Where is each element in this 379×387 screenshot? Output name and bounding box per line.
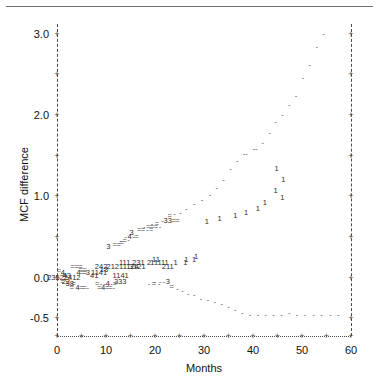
data-point: 1	[274, 165, 278, 173]
data-point: -	[236, 157, 239, 165]
data-point: 3121	[129, 263, 146, 271]
y-axis-title: MCF difference	[18, 147, 30, 222]
data-point: -	[296, 311, 299, 319]
x-tick: +	[226, 332, 231, 341]
data-point: 1141	[113, 272, 129, 280]
data-point: 1	[183, 260, 187, 268]
data-point: =	[169, 284, 173, 292]
data-point: -	[193, 201, 196, 209]
data-point: -	[322, 30, 325, 38]
data-point: -	[295, 92, 298, 100]
data-point: -	[281, 111, 284, 119]
data-point: -	[274, 118, 277, 126]
data-point: -	[179, 209, 182, 217]
y-tick: +	[54, 314, 59, 323]
data-point: -	[262, 139, 265, 147]
data-point: 1	[263, 199, 267, 207]
y-tick: +	[54, 111, 59, 120]
data-point: -	[87, 284, 90, 292]
data-point: -	[313, 311, 316, 319]
data-point: 3	[106, 243, 110, 251]
data-point: =	[69, 284, 73, 292]
data-point: -	[288, 310, 291, 318]
data-point: -	[320, 311, 323, 319]
data-point: -	[280, 311, 283, 319]
data-point: -	[173, 210, 176, 218]
x-tick-label: 30	[198, 344, 210, 356]
data-point: -	[158, 281, 161, 289]
x-tick: +	[201, 332, 206, 341]
y-tick: +	[348, 151, 353, 160]
data-point: -	[272, 311, 275, 319]
data-point: 1	[256, 206, 260, 214]
data-point: -	[193, 292, 196, 300]
data-point: 242	[95, 263, 108, 271]
data-point: =	[82, 266, 86, 274]
y-tick: +	[54, 192, 59, 201]
y-tick: +	[348, 70, 353, 79]
data-point: -	[176, 285, 179, 293]
y-tick-label: 3.0	[34, 28, 49, 40]
data-point: 1	[233, 212, 237, 220]
x-tick-label: 20	[149, 344, 161, 356]
y-tick: +	[54, 29, 59, 38]
data-point: -	[329, 311, 332, 319]
x-tick: +	[177, 332, 182, 341]
data-point: -	[337, 311, 340, 319]
data-point: -	[148, 281, 151, 289]
x-axis-title: Months	[186, 362, 222, 374]
x-tick-label: 10	[100, 344, 112, 356]
scatter-plot-area: ++-0.5++0.0++++1.0++++2.0++++3.0+0++10++…	[0, 0, 379, 387]
y-tick: +	[348, 232, 353, 241]
x-tick: +	[54, 332, 59, 341]
data-point: 1	[205, 219, 209, 227]
data-point: -	[249, 311, 252, 319]
data-point: 11	[152, 256, 160, 264]
y-tick: +	[54, 151, 59, 160]
x-tick-label: 50	[296, 344, 308, 356]
data-point: -	[229, 165, 232, 173]
data-point: -	[264, 311, 267, 319]
data-point: -	[215, 184, 218, 192]
y-tick-label: 2.0	[34, 109, 49, 121]
data-point: =	[155, 220, 159, 228]
data-point: --	[243, 150, 248, 158]
x-tick: +	[275, 332, 280, 341]
data-point: 1	[218, 215, 222, 223]
x-tick: +	[128, 332, 133, 341]
data-point: 1	[273, 188, 277, 196]
data-point: -	[151, 220, 154, 228]
data-point: -	[288, 102, 291, 110]
x-tick: +	[299, 332, 304, 341]
x-tick: +	[250, 332, 255, 341]
data-point: 3	[129, 229, 133, 237]
data-point: -	[227, 303, 230, 311]
data-point: 1	[194, 253, 198, 261]
data-point: -	[234, 306, 237, 314]
x-tick-label: 60	[345, 344, 357, 356]
data-point: -	[309, 61, 312, 69]
figure-canvas: ++-0.5++0.0++++1.0++++2.0++++3.0+0++10++…	[0, 0, 379, 387]
data-point: -	[220, 300, 223, 308]
data-point: -	[257, 311, 260, 319]
y-tick: +	[54, 70, 59, 79]
data-point: -	[302, 74, 305, 82]
data-point: 1	[281, 176, 285, 184]
x-tick-label: 40	[247, 344, 259, 356]
y-tick: +	[54, 232, 59, 241]
x-tick: +	[324, 332, 329, 341]
data-point: =	[78, 263, 82, 271]
data-point: -	[315, 43, 318, 51]
y-tick-label: 1.0	[34, 190, 49, 202]
data-point: -	[207, 297, 210, 305]
data-point: --	[252, 145, 257, 153]
data-point: 211	[162, 263, 174, 271]
x-tick: +	[348, 332, 353, 341]
data-point: -	[209, 191, 212, 199]
data-point: -	[200, 295, 203, 303]
y-tick: +	[348, 29, 353, 38]
x-tick: +	[79, 332, 84, 341]
y-tick: +	[348, 111, 353, 120]
data-point: -	[201, 196, 204, 204]
y-tick: +	[348, 273, 353, 282]
